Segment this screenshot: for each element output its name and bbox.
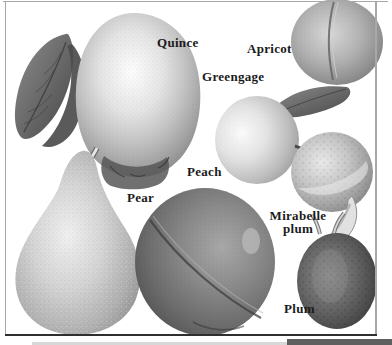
- peach-fruit: [135, 188, 275, 336]
- plate-frame-top: [3, 1, 388, 2]
- greengage-fruit: [215, 96, 299, 184]
- peach-label: Peach: [187, 165, 222, 178]
- apricot-fruit: [291, 0, 383, 85]
- mirabelle-fruit: [291, 132, 373, 212]
- scan-edge-band: [287, 339, 392, 345]
- mirabelle-plum-label-line2: plum: [264, 222, 332, 235]
- quince-leaf-icon: [15, 34, 85, 147]
- pear-label: Pear: [127, 191, 154, 204]
- botanical-plate: Quince Apricot Greengage Peach Pear Mira…: [0, 0, 392, 345]
- plate-frame-right: [375, 1, 377, 335]
- plate-frame-bottom: [5, 334, 377, 336]
- quince-label: Quince: [157, 36, 199, 49]
- plum-label: Plum: [284, 302, 315, 315]
- mirabelle-plum-label: Mirabelle plum: [264, 209, 332, 235]
- plate-frame-left: [5, 1, 6, 335]
- greengage-label: Greengage: [202, 70, 264, 83]
- apricot-label: Apricot: [247, 42, 292, 55]
